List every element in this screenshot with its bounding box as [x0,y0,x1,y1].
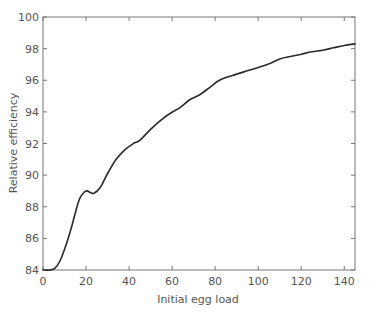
y-tick-label: 88 [25,201,39,214]
y-tick-label: 84 [25,264,39,277]
x-tick-label: 60 [165,275,179,288]
x-tick-label: 20 [79,275,93,288]
x-tick-label: 140 [334,275,355,288]
x-tick-label: 100 [248,275,269,288]
data-line [43,44,355,270]
y-tick-label: 96 [25,74,39,87]
x-tick-label: 40 [122,275,136,288]
line-chart: 8486889092949698100 020406080100120140 I… [0,0,369,319]
x-tick-label: 80 [208,275,222,288]
x-axis-title: Initial egg load [157,293,239,306]
y-tick-label: 100 [18,11,39,24]
y-tick-label: 94 [25,106,39,119]
y-axis-title: Relative efficiency [7,92,20,193]
plot-border [43,17,355,270]
x-tick-label: 0 [40,275,47,288]
y-tick-label: 92 [25,138,39,151]
y-tick-label: 98 [25,43,39,56]
y-tick-label: 90 [25,169,39,182]
x-tick-label: 120 [291,275,312,288]
plot-frame [43,17,355,270]
x-axis: 020406080100120140 [40,17,355,288]
y-tick-label: 86 [25,232,39,245]
